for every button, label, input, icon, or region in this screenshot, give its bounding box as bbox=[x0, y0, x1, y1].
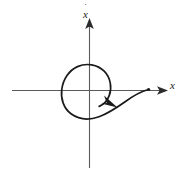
phase-plane-canvas bbox=[0, 0, 185, 178]
phase-plane-figure: x ˙ x bbox=[0, 0, 185, 178]
y-axis-label-base: x bbox=[83, 8, 88, 20]
y-axis-label: ˙ x bbox=[83, 5, 88, 20]
spiral-trajectory-path bbox=[62, 64, 149, 118]
trajectory-endpoint-dot bbox=[147, 88, 150, 91]
x-axis-label: x bbox=[170, 80, 175, 91]
